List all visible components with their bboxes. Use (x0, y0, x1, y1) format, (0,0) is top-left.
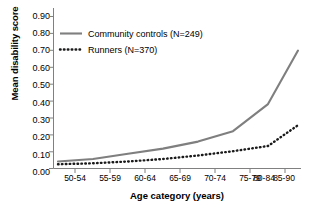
chart-canvas (0, 0, 309, 208)
x-tick-marks (75, 169, 285, 174)
series-line-community-controls (58, 51, 298, 162)
chart-figure: Mean disability score Age category (year… (0, 0, 309, 208)
y-tick-marks (49, 17, 54, 169)
